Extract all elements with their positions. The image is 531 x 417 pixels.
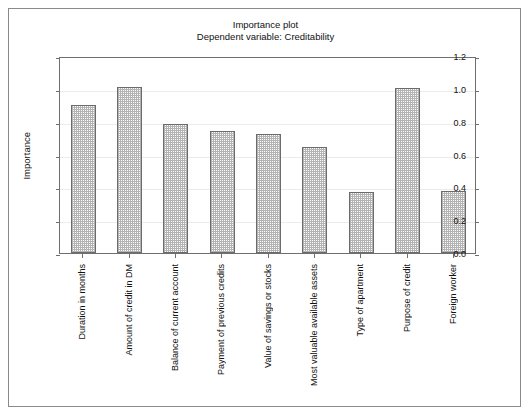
y-axis-tick [56,58,60,59]
y-axis-tick-label: 1.0 [440,85,466,95]
x-axis-tick-label: Type of apartment [355,264,365,337]
x-axis-tick-label: Payment of previous credits [216,264,226,375]
x-axis-tick [407,254,408,258]
y-axis-tick-label: 0.0 [440,249,466,259]
y-axis-tick [56,91,60,92]
x-axis-tick [129,254,130,258]
y-axis-tick [56,157,60,158]
y-axis-tick-label: 0.6 [440,151,466,161]
x-axis-tick-label: Foreign worker [448,264,458,324]
plot-area [59,57,476,254]
x-axis-labels: Duration in monthsAmount of credit in DM… [59,254,476,404]
x-axis-tick-label: Purpose of credit [402,264,412,332]
chart-subtitle: Dependent variable: Creditability [9,31,522,43]
y-axis-tick [56,222,60,223]
x-axis-tick [268,254,269,258]
bar [71,105,96,253]
x-axis-tick [82,254,83,258]
y-axis-tick [475,58,479,59]
x-axis-tick [314,254,315,258]
x-axis-tick-label: Most valuable available assets [309,264,319,386]
x-axis-tick [360,254,361,258]
bar [349,192,374,253]
chart-title-block: Importance plot Dependent variable: Cred… [9,19,522,43]
y-axis-tick [475,157,479,158]
bar [302,147,327,253]
page-title: Importance plot [9,19,522,31]
x-axis-tick-label: Duration in months [77,264,87,340]
x-axis-tick-label: Amount of credit in DM [124,264,134,356]
y-axis-tick [475,189,479,190]
bar [256,134,281,253]
y-axis-tick [475,124,479,125]
y-axis-tick [56,189,60,190]
y-axis-label-text: Importance [21,132,32,180]
y-axis-tick [475,222,479,223]
bar [117,87,142,253]
y-axis-label: Importance [19,57,33,254]
bar [395,88,420,253]
x-axis-tick [221,254,222,258]
x-axis-tick-label: Value of savings or stocks [263,264,273,368]
bar [163,124,188,253]
y-axis-tick-label: 0.4 [440,183,466,193]
figure-frame: Importance plot Dependent variable: Cred… [8,8,521,407]
y-axis-tick [56,124,60,125]
x-axis-tick [175,254,176,258]
y-axis-tick [475,91,479,92]
y-axis-tick-label: 0.2 [440,216,466,226]
y-axis-tick-label: 1.2 [440,52,466,62]
bar [210,131,235,253]
x-axis-tick-label: Balance of current account [170,264,180,371]
y-axis-tick-label: 0.8 [440,118,466,128]
